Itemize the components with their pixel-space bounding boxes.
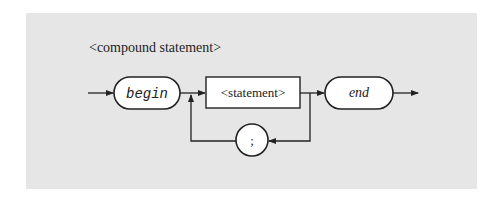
separator-node: ; (236, 124, 268, 156)
begin-label: begin (126, 86, 168, 102)
diagram-title: <compound statement> (89, 40, 221, 55)
statement-node: <statement> (206, 77, 300, 108)
begin-node: begin (114, 77, 180, 109)
statement-label: <statement> (221, 85, 285, 100)
syntax-diagram: <compound statement> begin <statement> e… (0, 0, 500, 199)
separator-label: ; (250, 133, 254, 148)
end-label: end (349, 85, 370, 100)
end-node: end (325, 77, 393, 109)
